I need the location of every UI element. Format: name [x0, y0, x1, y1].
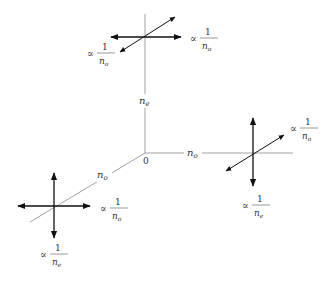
svg-text:∝: ∝ [100, 203, 107, 214]
svg-text:1: 1 [257, 194, 263, 204]
svg-text:no: no [112, 211, 122, 222]
svg-text:∝: ∝ [242, 200, 249, 211]
diagonal-axis [30, 153, 145, 222]
svg-text:1: 1 [205, 27, 211, 37]
svg-text:1: 1 [305, 117, 311, 127]
top-diagonal-arrow [120, 17, 175, 52]
svg-text:∝: ∝ [190, 33, 197, 44]
svg-text:no: no [302, 131, 312, 142]
index-ellipsoid-diagram: ne no no 0 ∝ 1 no ∝ 1 no ∝ 1 no [0, 0, 333, 282]
top-right-label: ∝ 1 no [190, 27, 218, 52]
svg-text:no: no [99, 56, 109, 67]
right-cluster: ∝ 1 no ∝ 1 ne [226, 117, 318, 219]
svg-text:∝: ∝ [290, 123, 297, 134]
svg-text:∝: ∝ [87, 48, 94, 59]
right-lower-label: ∝ 1 ne [242, 194, 270, 219]
origin-label: 0 [143, 156, 149, 166]
right-upper-label: ∝ 1 no [290, 117, 318, 142]
left-right-label: ∝ 1 no [100, 197, 128, 222]
top-cluster: ∝ 1 no ∝ 1 no [87, 17, 218, 67]
svg-text:ne: ne [52, 257, 62, 268]
svg-text:no: no [202, 41, 212, 52]
left-cluster: ∝ 1 no ∝ 1 ne [18, 173, 128, 268]
svg-text:1: 1 [115, 197, 121, 207]
top-left-label: ∝ 1 no [87, 42, 115, 67]
svg-text:ne: ne [254, 208, 264, 219]
left-bottom-label: ∝ 1 ne [40, 243, 68, 268]
svg-text:1: 1 [102, 42, 108, 52]
svg-text:∝: ∝ [40, 249, 47, 260]
svg-text:1: 1 [55, 243, 61, 253]
